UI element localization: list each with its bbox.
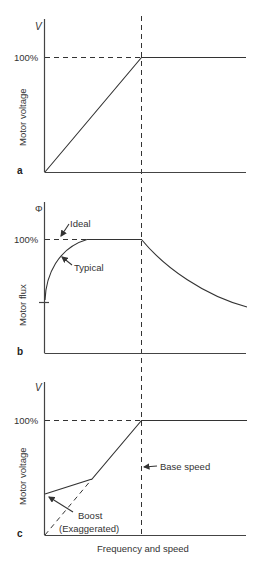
motor-characteristics-figure: V 100% Motor voltage a Φ 100% Motor flux… <box>0 0 259 566</box>
base-speed-label: Base speed <box>160 461 210 472</box>
pct100-c: 100% <box>14 415 39 426</box>
panel-label-a: a <box>17 165 23 176</box>
boost-label: Boost <box>78 510 103 521</box>
typical-label: Typical <box>74 262 104 273</box>
base-speed-arrow <box>144 466 157 467</box>
exaggerated-label: (Exaggerated) <box>59 523 119 534</box>
v-symbol-a: V <box>35 21 43 32</box>
panel-label-c: c <box>17 528 23 539</box>
boost-arrow <box>49 497 73 512</box>
boosted-voltage-curve <box>45 421 247 495</box>
panel-label-b: b <box>17 346 23 357</box>
panel-a: V 100% Motor voltage a <box>14 19 246 176</box>
voltage-curve-a <box>45 58 246 173</box>
panel-b: Φ 100% Motor flux b Ideal Typical <box>14 202 247 357</box>
typical-flux-curve <box>45 240 247 308</box>
ylabel-b: Motor flux <box>17 284 28 326</box>
ideal-arrow <box>61 224 69 236</box>
ylabel-c: Motor voltage <box>17 447 28 505</box>
typical-arrow <box>62 257 72 265</box>
pct100-a: 100% <box>14 52 39 63</box>
ylabel-a: Motor voltage <box>17 88 28 146</box>
ideal-label: Ideal <box>70 218 91 229</box>
pct100-b: 100% <box>14 234 39 245</box>
panel-c: V 100% Motor voltage c Base speed Boost … <box>14 382 247 554</box>
x-caption: Frequency and speed <box>97 543 189 554</box>
phi-symbol: Φ <box>35 203 43 214</box>
v-symbol-c: V <box>35 382 43 393</box>
